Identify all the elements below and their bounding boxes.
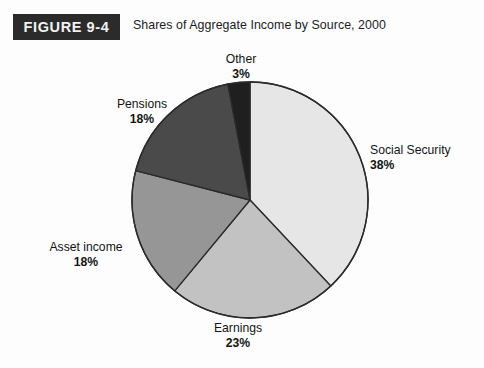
pie-label-asset-income-value: 18% xyxy=(28,255,144,270)
pie-label-other-category: Other xyxy=(198,52,284,67)
pie-label-social-security-category: Social Security xyxy=(370,143,482,158)
pie-label-asset-income: Asset income 18% xyxy=(28,240,144,270)
pie-label-earnings: Earnings 23% xyxy=(186,321,290,351)
pie-label-social-security-value: 38% xyxy=(370,158,482,173)
pie-label-earnings-category: Earnings xyxy=(186,321,290,336)
pie-chart: Other 3% Pensions 18% Social Security 38… xyxy=(0,0,484,368)
pie-label-pensions-value: 18% xyxy=(94,112,190,127)
figure-container: FIGURE 9-4 Shares of Aggregate Income by… xyxy=(0,0,484,368)
pie-label-asset-income-category: Asset income xyxy=(28,240,144,255)
pie-label-pensions-category: Pensions xyxy=(94,97,190,112)
pie-label-pensions: Pensions 18% xyxy=(94,97,190,127)
pie-label-other-value: 3% xyxy=(198,67,284,82)
pie-label-social-security: Social Security 38% xyxy=(370,143,482,173)
pie-label-other: Other 3% xyxy=(198,52,284,82)
pie-label-earnings-value: 23% xyxy=(186,336,290,351)
